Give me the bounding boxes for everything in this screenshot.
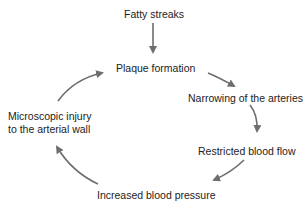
arrow-pressure-to-injury	[57, 147, 98, 184]
node-plaque-formation: Plaque formation	[116, 62, 195, 74]
atherosclerosis-cycle-diagram: Fatty streaks Plaque formation Narrowing…	[0, 0, 307, 210]
node-narrowing-of-arteries: Narrowing of the arteries	[188, 92, 303, 104]
node-restricted-blood-flow: Restricted blood flow	[198, 145, 295, 157]
arrows-layer	[0, 0, 307, 210]
node-microscopic-injury-line1: Microscopic injury	[8, 110, 91, 122]
arrow-injury-to-plaque	[58, 73, 102, 101]
arrow-restricted-to-pressure	[214, 160, 244, 180]
arrow-plaque-to-narrowing	[208, 73, 234, 86]
node-increased-blood-pressure: Increased blood pressure	[97, 189, 216, 201]
node-fatty-streaks: Fatty streaks	[124, 8, 184, 20]
node-microscopic-injury-line2: to the arterial wall	[8, 123, 90, 135]
arrow-narrowing-to-restricted	[250, 105, 257, 131]
